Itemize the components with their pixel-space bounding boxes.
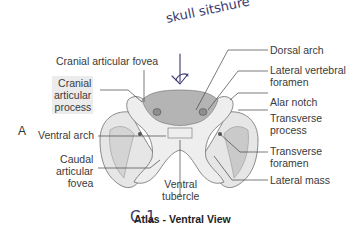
- label-cranial-articular-fovea: Cranial articular fovea: [56, 55, 158, 67]
- left-lateral-foramen: [153, 109, 161, 116]
- label-caudal-articular-fovea: Caudal articular fovea: [56, 153, 93, 189]
- label-lateral-mass: Lateral mass: [270, 174, 330, 186]
- label-alar-notch: Alar notch: [270, 96, 317, 108]
- label-cranial-articular-process: Cranial articular process: [52, 76, 93, 114]
- figure-title: Atlas - Ventral View: [130, 213, 231, 225]
- label-ventral-arch: Ventral arch: [38, 129, 94, 141]
- label-ventral-tubercle: Ventral tubercle: [162, 178, 199, 202]
- right-lateral-foramen: [199, 109, 207, 116]
- panel-letter: A: [18, 124, 26, 138]
- label-dorsal-arch: Dorsal arch: [270, 44, 324, 56]
- label-lateral-vertebral-foramen: Lateral vertebral foramen: [270, 64, 346, 88]
- label-transverse-foramen: Transverse foramen: [270, 145, 322, 169]
- label-transverse-process: Transverse process: [270, 112, 322, 136]
- svg-text:skull sitshure: skull sitshure: [165, 0, 252, 26]
